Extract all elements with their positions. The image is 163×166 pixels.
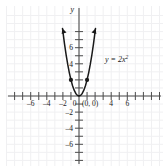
graph-canvas: –6–4–204664–2–4–6y(0, 0)y = 2x2 bbox=[0, 0, 163, 166]
parabola-graph bbox=[0, 0, 163, 166]
grid-lines bbox=[6, 6, 163, 166]
